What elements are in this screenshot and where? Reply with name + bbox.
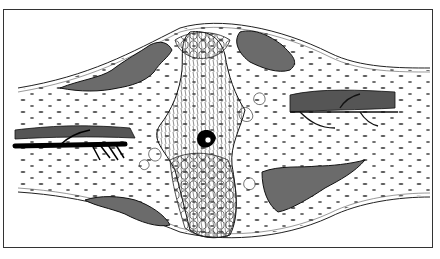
- fracture-callus-illustration: [0, 0, 440, 259]
